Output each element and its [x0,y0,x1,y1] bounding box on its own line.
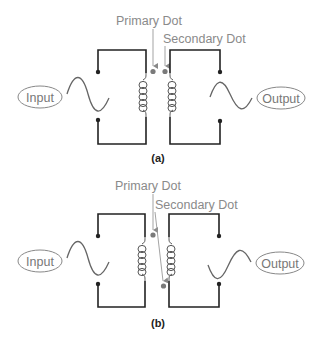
primary-bottom-wire-b [98,281,145,307]
caption-b: (b) [151,317,165,329]
primary-dot-b [150,232,155,237]
primary-top-wire-b [98,214,145,237]
output-label-a: Output [262,92,300,106]
caption-a: (a) [151,152,165,164]
diagram-a: Primary Dot Secondary Dot [18,14,305,164]
secondary-bottom-wire-b [169,281,219,307]
secondary-bottom-wire-a [170,117,220,144]
secondary-terminal-top-b [217,234,221,238]
secondary-coil-a [168,73,176,117]
transformer-dot-convention-figure: Primary Dot Secondary Dot [0,0,315,342]
secondary-terminal-bottom-a [218,119,222,123]
primary-terminal-bottom-a [96,118,100,122]
secondary-terminal-bottom-b [217,282,221,286]
secondary-coil-b [167,237,175,281]
secondary-top-wire-b [169,214,219,237]
primary-dot-label-b: Primary Dot [115,179,182,193]
output-label-b: Output [261,257,299,271]
secondary-dot-a [162,69,167,74]
primary-terminal-top-a [96,70,100,74]
secondary-dot-label-a: Secondary Dot [163,32,246,46]
secondary-arrow-b [155,212,163,281]
secondary-dot-b [161,283,166,288]
secondary-terminal-top-a [218,70,222,74]
secondary-dot-label-b: Secondary Dot [155,198,238,212]
input-waveform-b [67,242,109,276]
input-label-a: Input [26,91,54,105]
output-waveform-b [208,250,251,278]
primary-dot-label-a: Primary Dot [116,14,183,28]
primary-bottom-wire-a [98,117,146,144]
input-waveform-a [67,78,109,112]
diagram-b: Primary Dot Secondary Dot [18,179,304,329]
secondary-top-wire-a [170,50,220,73]
primary-dot-a [150,69,155,74]
input-label-b: Input [26,255,54,269]
primary-terminal-top-b [96,234,100,238]
primary-coil-b [138,237,146,281]
output-waveform-a [210,82,252,109]
primary-coil-a [139,73,147,117]
primary-terminal-bottom-b [96,282,100,286]
primary-top-wire-a [98,50,146,73]
